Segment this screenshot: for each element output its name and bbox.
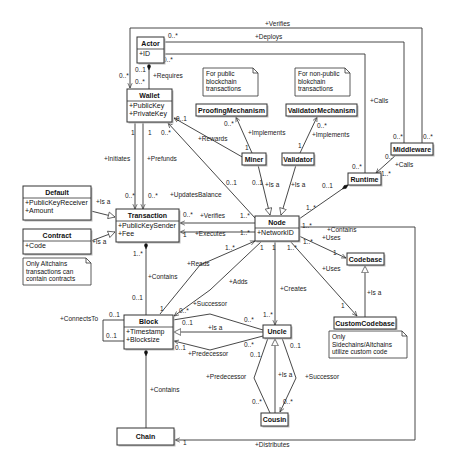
edge-label-reads: +Reads [187,260,210,267]
note-public: For publicblockchaintransactions [203,68,258,96]
multiplicity: 0..1 [109,311,120,318]
edge-label-validator-isa: +Is a [291,181,306,188]
multiplicity: 0..* [168,32,178,39]
edge-label-predecessor-uncle: +Predecessor [206,373,247,380]
note-line: Sidechains/Altchains [332,341,393,348]
class-wallet: Wallet+PublicKey+PrivateKey [127,89,174,124]
class-attribute: +Amount [25,207,53,214]
class-name: Actor [141,40,160,47]
edge-label-implements-pm: +Implements [248,129,286,137]
edge-uses-customcodebase [290,241,357,316]
class-name: Transaction [128,212,167,219]
multiplicity: 1 [333,249,337,256]
edge-label-updatesbalance: +UpdatesBalance [170,191,222,199]
multiplicity: 1 [341,302,345,309]
multiplicity: 0..1 [290,342,301,349]
class-codebase: Codebase [347,253,386,267]
class-attribute: +PublicKey [129,102,165,110]
class-validator: Validator [282,153,316,167]
class-attribute: +Code [25,242,46,249]
edge-label-initiates: +Initiates [104,155,131,162]
edge-label-rewards: +Rewards [198,135,228,142]
class-default: Default+PublicKeyReceiver+Amount [23,186,93,222]
class-attribute: +ID [139,50,150,57]
class-cousin: Cousin [261,413,290,428]
class-attribute: +PrivateKey [129,110,167,118]
multiplicity: 0..* [224,120,234,127]
class-transaction: Transaction+PublicKeySender+Fee [116,209,181,244]
multiplicity: 1 [148,129,152,136]
multiplicity: 0..* [119,72,129,79]
multiplicity: 0..1 [252,179,263,186]
multiplicity: 0..1 [175,344,186,351]
multiplicity: 1..* [302,222,312,229]
multiplicity: 1 [298,142,302,149]
note-nonpublic: For non-publicblokchaintransactions [295,68,350,96]
edge-label-adds: +Adds [229,278,248,285]
multiplicity: 0..1 [106,332,117,339]
class-name: Wallet [139,92,160,99]
class-attribute: +NetworkID [257,229,294,236]
note-line: utilize custom code [332,348,388,355]
edge-label-connectsto: +ConnectsTo [60,315,99,322]
multiplicity: 1 [160,305,164,312]
edge-label-verifies-top: +Verifies [265,20,291,27]
multiplicity: 1 [183,231,187,238]
class-proofing: ProofingMechanism [196,104,269,118]
multiplicity: 0..1 [135,66,146,73]
multiplicity: 0..* [161,129,171,136]
class-node: Node+NetworkID [255,216,301,243]
class-name: Node [268,219,286,226]
class-chain: Chain [117,428,176,447]
class-attribute: +PublicKeySender [118,222,176,230]
multiplicity: 1 [183,439,187,446]
multiplicity: 1 [245,144,249,151]
multiplicity: 0..1 [250,351,261,358]
edge-label-contains-runtime: +Contains [327,226,357,233]
edge-label-successor-uncle: +Successor [305,373,340,380]
multiplicity: 1..* [381,170,391,177]
class-name: Validator [283,156,313,163]
multiplicity: 1 [272,244,276,251]
multiplicity: 1..* [133,250,143,257]
class-name: Chain [136,433,155,440]
multiplicity: 0..* [135,78,145,85]
edge-label-uses-custom: +Uses [322,265,341,272]
multiplicity: 0..* [393,133,403,140]
edge-validator-isa-node [281,165,296,215]
multiplicity: 1..* [303,238,313,245]
class-runtime: Runtime [348,173,383,187]
class-name: ValidatorMechanism [288,107,356,114]
multiplicity: 1..* [240,229,250,236]
edge-default-isa-tx [91,211,115,217]
multiplicity: 1..* [306,204,316,211]
edge-label-uncle-isa-block: +Is a [208,324,223,331]
edge-label-implements-vm: +Implements [312,131,350,139]
edge-runtime-contains-node [299,185,348,219]
class-actor: Actor+ID [137,37,166,65]
class-attribute: +Timestamp [126,328,165,336]
note-line: transactions can [26,268,74,275]
class-contract: Contract+Code [23,229,93,256]
multiplicity: 0..* [179,307,189,314]
class-attribute: +Fee [118,230,134,237]
multiplicity: 1 [131,129,135,136]
multiplicity: 0..1 [322,182,333,189]
edge-label-cousin-isa: +Is a [278,371,293,378]
multiplicity: 0..* [244,316,254,323]
multiplicity: 1..* [263,311,273,318]
class-uncle: Uncle [263,325,293,340]
class-name: Codebase [349,256,383,263]
note-line: contain contracts [26,275,76,282]
edge-label-uses-codebase: +Uses [322,234,341,241]
multiplicity: 1..* [225,244,235,251]
multiplicity: 0..* [423,133,433,140]
edge-label-creates: +Creates [280,285,307,292]
note-sidechains: OnlySidechains/Altchainsutilize custom c… [329,331,407,358]
class-name: Cousin [263,416,287,423]
multiplicity: 1..* [240,212,250,219]
multiplicity: 1 [260,244,264,251]
multiplicity: 0..1 [176,115,187,122]
note-line: blokchain [298,78,326,85]
multiplicity: 0..* [183,211,193,218]
